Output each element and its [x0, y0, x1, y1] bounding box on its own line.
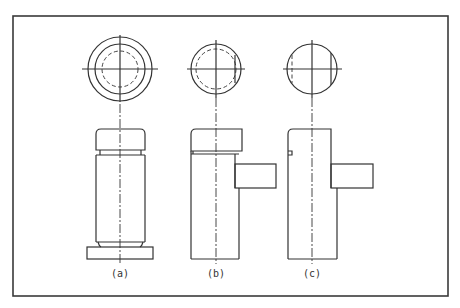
technical-drawing: (a) (b): [0, 0, 460, 308]
view-a-top: [82, 35, 158, 102]
label-c: (c): [303, 268, 321, 279]
view-a-front: [87, 104, 153, 264]
side-boss: [331, 164, 373, 188]
lower-neck: [98, 242, 143, 247]
view-c-top: [283, 40, 342, 98]
body-outline-upper: [288, 129, 331, 259]
side-boss: [235, 164, 276, 188]
view-c: (c): [283, 40, 373, 279]
drawing-frame: [13, 16, 448, 296]
label-b: (b): [207, 268, 225, 279]
view-b-front: [191, 98, 276, 264]
view-b: (b): [187, 40, 276, 279]
view-a: (a): [82, 35, 158, 279]
view-b-top: [187, 40, 245, 98]
upper-neck: [96, 150, 145, 155]
cap: [96, 129, 145, 150]
label-a: (a): [111, 268, 129, 279]
cap: [191, 129, 242, 151]
view-c-front: [288, 98, 373, 264]
